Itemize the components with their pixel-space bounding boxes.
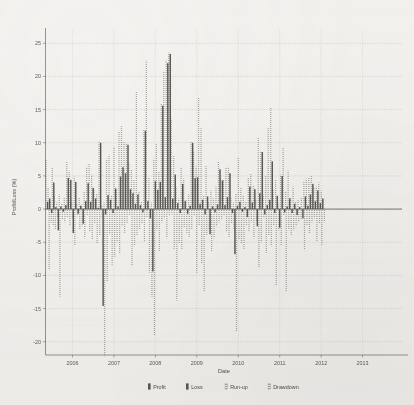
drawdown-bars bbox=[49, 209, 326, 356]
x-tick-label: 2013 bbox=[357, 360, 369, 366]
profit-loss-bar-chart: 2520151050-5-10-15-20 200620072008200920… bbox=[0, 0, 414, 405]
y-axis-title: Profit/Loss (%) bbox=[11, 179, 17, 216]
legend-swatch-hatched-bar-icon bbox=[225, 383, 228, 389]
y-tick-label: 0 bbox=[38, 206, 41, 212]
legend-swatch-hatched-bar-icon bbox=[268, 383, 271, 389]
x-tick-labels: 20062007200820092010201120122013 bbox=[66, 360, 368, 366]
y-tick-label: -5 bbox=[36, 239, 41, 245]
x-tick-label: 2010 bbox=[232, 360, 244, 366]
y-tick-label: 25 bbox=[35, 40, 41, 46]
y-tick-label: -20 bbox=[33, 339, 41, 345]
legend-swatch-solid-bar-icon bbox=[186, 383, 189, 389]
legend-item-label: Loss bbox=[191, 384, 203, 390]
legend-swatch-solid-bar-icon bbox=[148, 383, 151, 389]
x-axis-title: Date bbox=[218, 368, 230, 374]
y-tick-label: 10 bbox=[35, 140, 41, 146]
chart-figure: 2520151050-5-10-15-20 200620072008200920… bbox=[0, 0, 414, 405]
y-tick-label: -10 bbox=[33, 272, 41, 278]
x-tick-label: 2009 bbox=[191, 360, 203, 366]
legend-item-label: Drawdown bbox=[273, 384, 298, 390]
legend-item-label: Run-up bbox=[230, 384, 248, 390]
chart-legend: ProfitLossRun-upDrawdown bbox=[148, 383, 299, 390]
legend-item-label: Profit bbox=[153, 384, 166, 390]
y-tick-label: 20 bbox=[35, 73, 41, 79]
x-tick-label: 2012 bbox=[315, 360, 327, 366]
y-tick-labels: 2520151050-5-10-15-20 bbox=[33, 40, 41, 344]
x-tick-label: 2008 bbox=[149, 360, 161, 366]
runup-bars bbox=[45, 53, 322, 210]
x-tick-label: 2007 bbox=[108, 360, 120, 366]
y-tick-label: -15 bbox=[33, 306, 41, 312]
y-tick-label: 15 bbox=[35, 107, 41, 113]
y-tick-label: 5 bbox=[38, 173, 41, 179]
x-tick-label: 2006 bbox=[66, 360, 78, 366]
x-tick-label: 2011 bbox=[274, 360, 286, 366]
profit-loss-bars bbox=[47, 54, 324, 306]
